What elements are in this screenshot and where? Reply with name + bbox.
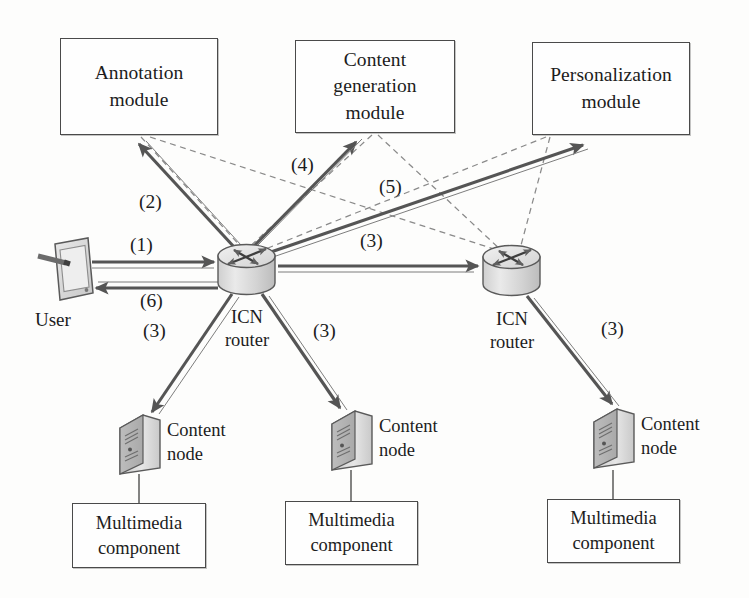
content-generation-module-line-1: Content [333, 47, 416, 73]
content-node-1-label: Content node [167, 418, 253, 466]
icn-router-right-graphic [483, 246, 540, 296]
user-tablet-graphic [38, 238, 93, 300]
icn-router-left-graphic [218, 245, 275, 295]
icn-router-right-line-1: ICN [470, 308, 554, 331]
annotation-module-line-2: module [95, 87, 184, 113]
module-box-content-generation[interactable]: Content generation module [295, 40, 455, 133]
content-node-2-label: Content node [379, 414, 465, 462]
multimedia-component-2-line-1: Multimedia [308, 510, 394, 530]
content-node-2-line-2: node [379, 438, 465, 462]
content-node-1-line-1: Content [167, 418, 253, 442]
icn-router-left-line-2: router [205, 329, 289, 352]
content-node-3-line-1: Content [641, 412, 727, 436]
flow-label-4: (4) [291, 152, 314, 177]
content-node-3-label: Content node [641, 412, 727, 460]
annotation-module-line-1: Annotation [95, 60, 184, 86]
dash-personalization-to-right-router [520, 137, 550, 249]
node-to-component-connectors [139, 470, 613, 503]
multimedia-component-2-line-2: component [310, 535, 392, 555]
personalization-module-line-1: Personalization [550, 62, 672, 88]
multimedia-component-3-line-1: Multimedia [570, 508, 656, 528]
flow-label-5: (5) [379, 174, 402, 199]
content-generation-module-line-3: module [333, 100, 416, 126]
content-node-3-graphic [594, 409, 634, 468]
multimedia-component-box-3[interactable]: Multimedia component [547, 499, 680, 563]
user-label: User [35, 308, 71, 333]
module-box-annotation[interactable]: Annotation module [60, 38, 218, 135]
flow-label-3-node-3: (3) [601, 316, 624, 341]
module-box-personalization[interactable]: Personalization module [532, 42, 690, 135]
arrow-flow-5 [268, 145, 583, 253]
personalization-module-line-2: module [550, 89, 672, 115]
icn-router-right-line-2: router [470, 331, 554, 354]
icn-router-left-line-1: ICN [205, 306, 289, 329]
icn-router-left-label: ICN router [205, 306, 289, 351]
flow-label-3-node-1: (3) [143, 318, 166, 343]
flow-label-3-node-2: (3) [313, 318, 336, 343]
content-node-3-line-2: node [641, 436, 727, 460]
content-node-2-graphic [332, 411, 372, 470]
content-generation-module-line-2: generation [333, 73, 416, 99]
multimedia-component-3-line-2: component [572, 533, 654, 553]
multimedia-component-box-1[interactable]: Multimedia component [72, 503, 206, 568]
multimedia-component-box-2[interactable]: Multimedia component [285, 501, 418, 565]
flow-label-3-router-to-router: (3) [360, 228, 383, 253]
multimedia-component-1-line-2: component [98, 538, 180, 558]
flow-label-2: (2) [139, 189, 162, 214]
icn-router-right-label: ICN router [470, 308, 554, 353]
content-node-2-line-1: Content [379, 414, 465, 438]
content-node-1-line-2: node [167, 442, 253, 466]
content-node-1-graphic [120, 415, 160, 474]
figure-canvas: Annotation module Content generation mod… [0, 0, 749, 598]
flow-label-6: (6) [140, 288, 163, 313]
flow-label-1: (1) [130, 232, 153, 257]
multimedia-component-1-line-1: Multimedia [96, 513, 182, 533]
